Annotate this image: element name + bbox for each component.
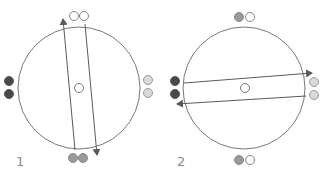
diagram-canvas: 1 2 bbox=[0, 0, 326, 182]
panel-label: 2 bbox=[177, 154, 185, 169]
top-dot-1 bbox=[235, 13, 244, 22]
top-dot-1 bbox=[70, 12, 79, 21]
bottom-dot-1 bbox=[235, 156, 244, 165]
panel-2: 2 bbox=[171, 13, 319, 170]
band-line-right-arrow-down bbox=[85, 24, 97, 155]
band-line-top-arrow-right bbox=[184, 73, 312, 83]
bottom-dot-2 bbox=[246, 156, 255, 165]
center-marker bbox=[75, 84, 84, 93]
top-dot-2 bbox=[246, 13, 255, 22]
right-dot-1 bbox=[310, 78, 319, 87]
panel-1: 1 bbox=[5, 12, 153, 170]
right-dot-1 bbox=[144, 76, 153, 85]
bottom-dot-1 bbox=[69, 154, 78, 163]
right-dot-2 bbox=[310, 91, 319, 100]
center-marker bbox=[241, 84, 250, 93]
bottom-dot-2 bbox=[79, 154, 88, 163]
left-dot-2 bbox=[171, 90, 180, 99]
panel-label: 1 bbox=[16, 154, 24, 169]
right-dot-2 bbox=[144, 89, 153, 98]
top-dot-2 bbox=[80, 12, 89, 21]
band-line-left-arrow-up bbox=[63, 19, 75, 150]
left-dot-2 bbox=[5, 90, 14, 99]
left-dot-1 bbox=[5, 77, 14, 86]
band-line-bottom-arrow-left bbox=[177, 96, 306, 104]
left-dot-1 bbox=[171, 77, 180, 86]
